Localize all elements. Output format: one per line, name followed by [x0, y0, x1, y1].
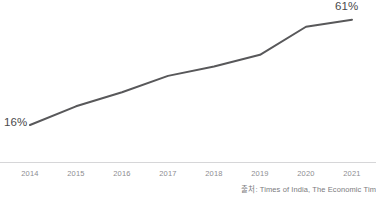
x-tick-2019: 2019 [238, 170, 282, 178]
x-tick-2017: 2017 [146, 170, 190, 178]
x-tick-2014: 2014 [8, 170, 52, 178]
series-line [30, 20, 352, 125]
x-tick-2021: 2021 [330, 170, 374, 178]
x-tick-2015: 2015 [54, 170, 98, 178]
x-tick-2020: 2020 [284, 170, 328, 178]
line-chart: 16% 61% 20142015201620172018201920202021… [0, 0, 376, 200]
x-tick-2018: 2018 [192, 170, 236, 178]
source-note: 출처: Times of India, The Economic Tim [241, 186, 376, 194]
start-value-label: 16% [4, 117, 27, 129]
end-value-label: 61% [335, 1, 358, 13]
x-tick-2016: 2016 [100, 170, 144, 178]
